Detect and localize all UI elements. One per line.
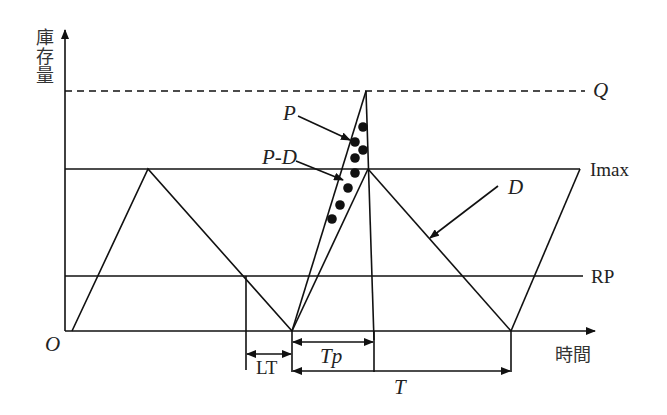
pd-rate-label: P-D [262,147,297,168]
y-axis-label: 庫存量 [34,28,52,85]
production-dots [327,122,368,224]
first-cycle-curve [72,169,292,331]
t-label: T [394,377,406,398]
p-pointer-arrow [298,116,350,140]
imax-level-label: Imax [590,160,629,179]
p-rate-label: P [283,103,296,124]
pd-pointer-arrow [296,161,343,180]
production-minus-demand-line [292,169,368,331]
d-pointer-arrow [430,186,498,238]
origin-label: O [45,334,60,355]
x-axis-label: 時間 [555,346,591,364]
d-rate-label: D [508,177,523,198]
production-line [292,91,366,331]
tp-label: Tp [320,346,342,367]
q-level-label: Q [593,80,608,101]
lt-label: LT [256,358,277,377]
rp-level-label: RP [591,267,614,286]
